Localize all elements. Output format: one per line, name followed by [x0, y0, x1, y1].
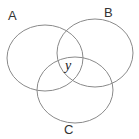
set-c-circle [57, 19, 133, 87]
set-a-label: A [8, 8, 17, 23]
set-c-label: B [104, 5, 113, 20]
set-a-circle [7, 25, 83, 91]
set-b-label: C [64, 122, 73, 137]
set-b-circle [37, 57, 113, 123]
intersection-label: y [65, 58, 71, 74]
